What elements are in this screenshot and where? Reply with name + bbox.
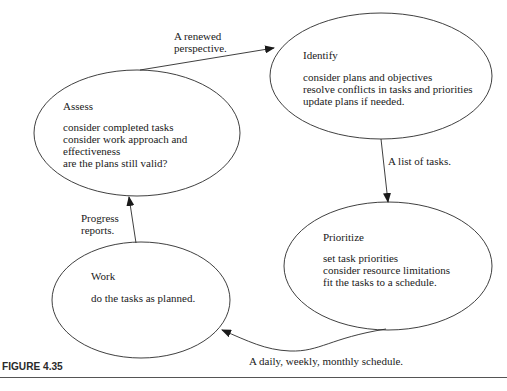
edge-label-work-to-assess-1: Progress bbox=[81, 212, 119, 224]
edge-label-assess-to-identify-2: perspective. bbox=[174, 42, 227, 54]
prioritize-line-2: consider resource limitations bbox=[323, 264, 450, 276]
edge-label-identify-to-prioritize: A list of tasks. bbox=[388, 155, 451, 167]
edge-label-assess-to-identify-1: A renewed bbox=[174, 30, 222, 42]
edge-label-work-to-assess-2: reports. bbox=[81, 224, 115, 236]
edge-prioritize-to-work bbox=[222, 329, 386, 351]
identify-title: Identify bbox=[303, 49, 338, 61]
identify-line-2: resolve conflicts in tasks and prioritie… bbox=[303, 83, 473, 95]
assess-title: Assess bbox=[63, 100, 93, 112]
work-line-1: do the tasks as planned. bbox=[91, 292, 195, 304]
work-title: Work bbox=[91, 270, 116, 282]
identify-line-3: update plans if needed. bbox=[303, 95, 405, 107]
cycle-diagram: Identify consider plans and objectives r… bbox=[0, 0, 507, 391]
identify-line-1: consider plans and objectives bbox=[303, 71, 432, 83]
caption-divider bbox=[0, 377, 507, 378]
edge-work-to-assess bbox=[129, 197, 136, 243]
figure-caption: FIGURE 4.35 bbox=[2, 360, 63, 372]
assess-line-3: effectiveness bbox=[63, 145, 120, 157]
edge-label-prioritize-to-work: A daily, weekly, monthly schedule. bbox=[249, 355, 403, 367]
prioritize-line-1: set task priorities bbox=[323, 252, 398, 264]
prioritize-title: Prioritize bbox=[323, 231, 364, 243]
assess-line-4: are the plans still valid? bbox=[63, 157, 168, 169]
prioritize-line-3: fit the tasks to a schedule. bbox=[323, 276, 437, 288]
edge-identify-to-prioritize bbox=[381, 139, 388, 202]
assess-line-2: consider work approach and bbox=[63, 133, 188, 145]
assess-line-1: consider completed tasks bbox=[63, 121, 174, 133]
